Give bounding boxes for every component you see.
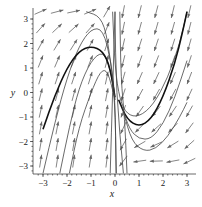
arrowhead-icon xyxy=(169,113,173,117)
arrowhead-icon xyxy=(89,155,92,159)
arrowhead-icon xyxy=(154,47,157,51)
x-tick-label: −3 xyxy=(38,178,48,188)
x-tick-label: −1 xyxy=(86,178,96,188)
arrowhead-icon xyxy=(56,155,59,159)
arrowhead-icon xyxy=(90,55,93,59)
direction-field-plot: −3−2−10123 3210−1−2−3 x y xyxy=(0,0,202,207)
solution-curves xyxy=(43,12,187,174)
arrowhead-icon xyxy=(137,96,140,100)
arrowhead-icon xyxy=(167,160,171,163)
arrowhead-icon xyxy=(106,22,109,26)
arrowhead-icon xyxy=(89,122,92,126)
y-tick-label: −3 xyxy=(18,161,28,171)
arrowhead-icon xyxy=(40,39,43,43)
arrowhead-icon xyxy=(187,96,190,100)
y-tick-label: 0 xyxy=(24,88,29,98)
arrowhead-icon xyxy=(39,155,42,159)
y-axis-ticks: 3210−1−2−3 xyxy=(18,14,33,171)
solution-curve-left-5 xyxy=(86,12,115,100)
x-tick-label: 1 xyxy=(137,178,142,188)
arrowhead-icon xyxy=(107,6,110,10)
arrowhead-icon xyxy=(186,113,189,117)
arrowhead-icon xyxy=(138,47,141,51)
arrowhead-icon xyxy=(137,63,140,67)
x-tick-label: −2 xyxy=(62,178,72,188)
arrowhead-icon xyxy=(56,122,59,126)
arrowhead-icon xyxy=(73,72,76,76)
solution-curve-right-3 xyxy=(122,61,187,140)
arrowhead-icon xyxy=(73,88,76,92)
arrowhead-icon xyxy=(57,56,60,60)
arrowhead-icon xyxy=(184,161,188,164)
arrowhead-icon xyxy=(40,72,43,76)
arrowhead-icon xyxy=(171,47,174,51)
y-axis-label: y xyxy=(10,87,16,98)
arrowhead-icon xyxy=(150,144,154,147)
arrowhead-icon xyxy=(56,72,59,76)
y-tick-label: 1 xyxy=(24,63,29,73)
arrowhead-icon xyxy=(138,30,141,34)
arrowhead-icon xyxy=(154,30,157,34)
arrowhead-icon xyxy=(92,9,96,12)
arrowhead-icon xyxy=(106,122,109,126)
arrowhead-icon xyxy=(187,63,190,67)
arrowhead-icon xyxy=(40,55,43,59)
arrowhead-icon xyxy=(106,88,109,92)
arrowhead-icon xyxy=(154,80,157,84)
arrowhead-icon xyxy=(187,80,190,84)
arrowhead-icon xyxy=(154,14,157,18)
arrowhead-icon xyxy=(57,39,60,43)
solution-curve-right-2 xyxy=(119,12,187,125)
y-tick-label: 2 xyxy=(24,39,29,49)
arrowhead-icon xyxy=(170,80,173,84)
y-tick-label: 3 xyxy=(24,14,29,24)
arrowhead-icon xyxy=(121,130,124,134)
y-tick-label: −2 xyxy=(18,137,28,147)
arrowhead-icon xyxy=(42,9,46,12)
x-tick-label: 2 xyxy=(161,178,166,188)
x-tick-label: 0 xyxy=(113,178,118,188)
arrowhead-icon xyxy=(89,72,92,76)
arrowhead-icon xyxy=(171,30,174,34)
arrowhead-icon xyxy=(150,160,154,163)
arrowhead-icon xyxy=(40,122,43,126)
arrowhead-icon xyxy=(74,39,78,43)
y-tick-label: −1 xyxy=(18,112,28,122)
arrowhead-icon xyxy=(167,144,171,148)
arrowhead-icon xyxy=(137,80,140,84)
axes: −3−2−10123 3210−1−2−3 x y xyxy=(10,8,196,199)
arrowhead-icon xyxy=(89,138,92,142)
arrowhead-icon xyxy=(73,138,76,142)
arrowhead-icon xyxy=(39,138,42,142)
arrowhead-icon xyxy=(121,14,124,18)
arrowhead-icon xyxy=(106,105,109,109)
arrowhead-icon xyxy=(56,138,59,142)
arrowhead-icon xyxy=(187,47,190,51)
x-axis-ticks: −3−2−10123 xyxy=(38,174,190,188)
arrowhead-icon xyxy=(133,160,137,163)
arrowhead-icon xyxy=(154,63,157,67)
arrowhead-icon xyxy=(170,96,173,100)
arrowhead-icon xyxy=(90,39,93,43)
x-tick-label: 3 xyxy=(185,178,190,188)
solution-curve-left-3 xyxy=(43,47,115,129)
arrowhead-icon xyxy=(106,138,109,142)
arrowhead-icon xyxy=(73,122,76,126)
x-axis-label: x xyxy=(109,188,115,199)
solution-curve-right-4 xyxy=(123,102,187,150)
arrowhead-icon xyxy=(59,10,63,13)
